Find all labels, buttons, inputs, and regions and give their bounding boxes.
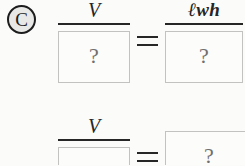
worksheet-canvas: C V ? ℓwh ? V ? ? [0, 0, 245, 165]
equals-sign-2 [137, 152, 158, 162]
answer-box-denominator-1[interactable]: ? [58, 31, 130, 83]
fraction-bar-left-1 [58, 23, 130, 25]
part-label-badge: C [7, 5, 36, 34]
answer-placeholder: ? [89, 161, 99, 165]
answer-box-result-2[interactable]: ? [165, 131, 245, 166]
equals-sign-1 [137, 36, 158, 46]
part-label-text: C [15, 10, 28, 29]
numerator-right-1: ℓwh [165, 0, 243, 23]
answer-placeholder: ? [204, 145, 214, 166]
answer-placeholder: ? [89, 45, 99, 67]
equation-row: V ? ? [58, 114, 245, 165]
fraction-bar-right-1 [165, 23, 243, 25]
answer-box-denominator-3[interactable]: ? [58, 147, 130, 165]
numerator-left-2: V [58, 114, 130, 139]
fraction-right-1: ℓwh ? [165, 0, 243, 83]
fraction-bar-left-2 [58, 139, 130, 141]
equation-row: V ? ℓwh ? [58, 0, 243, 83]
fraction-left-2: V ? [58, 114, 130, 165]
numerator-left-1: V [58, 0, 130, 23]
answer-placeholder: ? [199, 45, 209, 67]
fraction-left-1: V ? [58, 0, 130, 83]
answer-box-denominator-2[interactable]: ? [165, 31, 243, 83]
